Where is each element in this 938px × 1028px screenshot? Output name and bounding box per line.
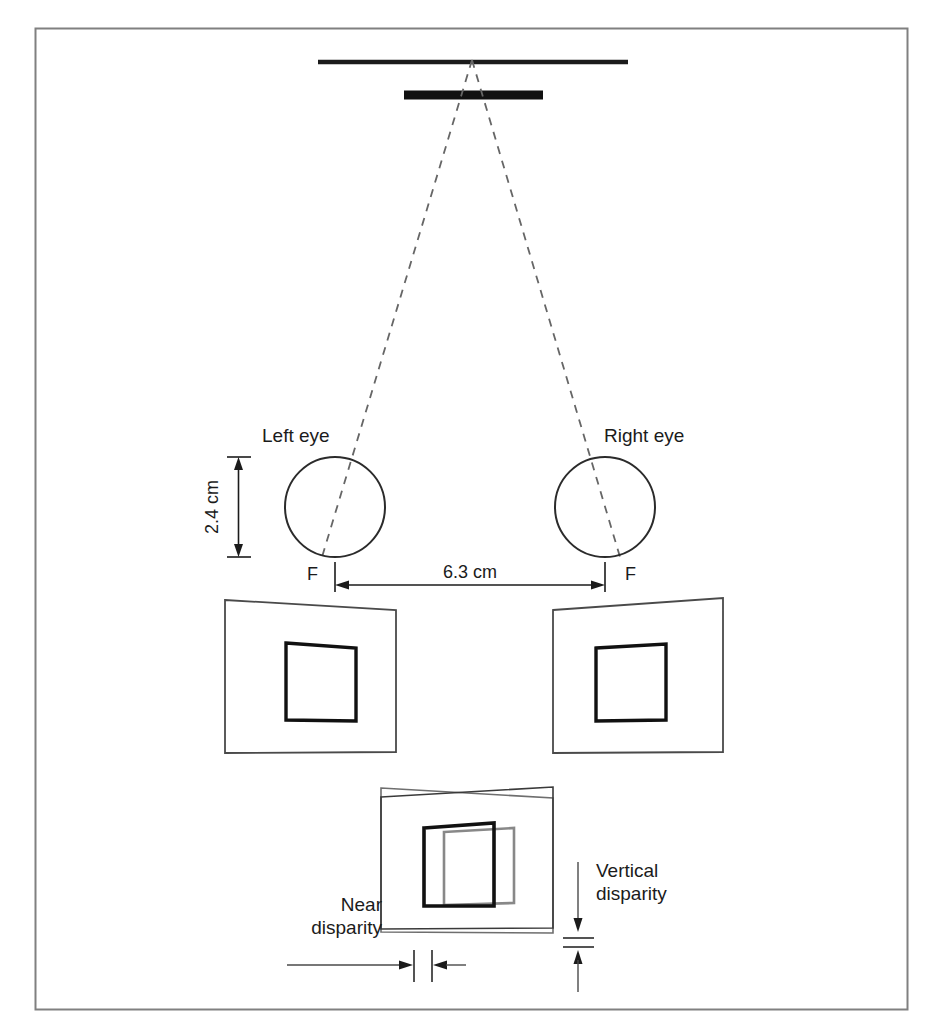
diagram-canvas: Left eye Right eye F F 2.4 cm 6.3 cm Nea… [0,0,938,1028]
interocular-distance-label: 6.3 cm [443,562,497,582]
near-disparity-label-line1: Near [341,894,383,915]
right-fovea-label: F [625,564,636,584]
left-fovea-label: F [307,564,318,584]
left-eye-label: Left eye [262,425,330,446]
near-disparity-label-line2: disparity [311,917,382,938]
figure-border [36,29,908,1010]
vertical-disparity-label-line1: Vertical [596,860,658,881]
figure-root: Left eye Right eye F F 2.4 cm 6.3 cm Nea… [0,0,938,1028]
vertical-disparity-label-line2: disparity [596,883,667,904]
eye-diameter-label: 2.4 cm [202,480,222,534]
right-eye-label: Right eye [604,425,684,446]
